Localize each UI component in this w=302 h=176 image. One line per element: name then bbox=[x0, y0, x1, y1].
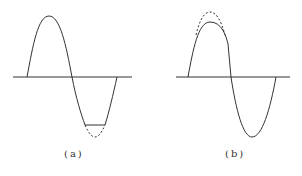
waveform-diagram bbox=[0, 0, 302, 176]
figure-a bbox=[13, 16, 132, 137]
wave-b-dashed-original bbox=[196, 12, 225, 35]
figure-b bbox=[176, 12, 290, 137]
wave-b-negative bbox=[231, 77, 276, 137]
caption-b: (b) bbox=[225, 148, 245, 159]
wave-a-dashed-original bbox=[85, 125, 105, 137]
wave-a-negative-clipped bbox=[72, 77, 117, 125]
wave-b-positive-compressed bbox=[188, 22, 231, 77]
wave-a-positive bbox=[27, 16, 72, 77]
caption-a: (a) bbox=[64, 148, 84, 159]
